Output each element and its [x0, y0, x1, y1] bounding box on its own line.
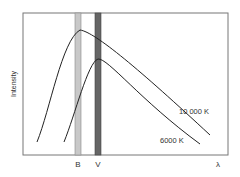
- curve-10000k-label: 10 000 K: [179, 107, 209, 116]
- band-b: [75, 13, 81, 155]
- blackbody-diagram: Intensity B V λ 10 000 K 6000 K: [0, 0, 240, 177]
- curve-6000k-label: 6000 K: [160, 136, 184, 145]
- band-v: [95, 13, 101, 155]
- band-v-label: V: [95, 160, 101, 169]
- band-b-label: B: [75, 160, 80, 169]
- curve-6000k: [64, 59, 200, 144]
- curve-10000k: [37, 30, 210, 142]
- y-axis-label: Intensity: [10, 70, 18, 97]
- plot-frame: [23, 13, 228, 155]
- x-axis-label: λ: [216, 160, 220, 169]
